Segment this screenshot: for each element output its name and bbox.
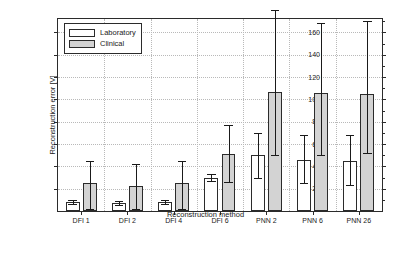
- error-bar-line: [90, 161, 91, 209]
- error-bar-cap-upper: [317, 23, 325, 24]
- bar-group: PNN 26: [336, 19, 382, 211]
- error-bar-cap-upper: [224, 125, 232, 126]
- error-bar-cap-lower: [300, 183, 308, 184]
- error-bar-line: [229, 125, 230, 182]
- error-bar-cap-upper: [178, 161, 186, 162]
- error-bar-cap-lower: [115, 205, 123, 206]
- error-bar-cap-upper: [161, 200, 169, 201]
- y-tick-minor: [382, 21, 385, 22]
- error-bar-cap-lower: [207, 181, 215, 182]
- error-bar-cap-upper: [254, 133, 262, 134]
- y-tick-minor: [382, 200, 385, 201]
- error-bar-line: [211, 174, 212, 181]
- y-tick-right: [382, 144, 386, 145]
- y-tick-minor: [382, 88, 385, 89]
- error-bar-line: [304, 135, 305, 183]
- error-bar-cap-upper: [346, 135, 354, 136]
- y-tick-right: [382, 99, 386, 100]
- x-axis-title: Reconstruction method: [0, 210, 411, 219]
- legend-label-laboratory: Laboratory: [100, 29, 136, 37]
- y-tick-right: [382, 189, 386, 190]
- error-bar-cap-upper: [207, 174, 215, 175]
- bar-group: PNN 2: [243, 19, 289, 211]
- error-bar-cap-lower: [161, 204, 169, 205]
- error-bar-cap-upper: [300, 135, 308, 136]
- error-bar-cap-upper: [363, 21, 371, 22]
- legend-swatch-laboratory: [69, 29, 95, 37]
- error-bar-cap-upper: [68, 200, 76, 201]
- error-bar-cap-lower: [68, 204, 76, 205]
- error-bar-cap-upper: [115, 201, 123, 202]
- y-axis-title: Reconstruction error [V]: [48, 75, 57, 154]
- y-tick-minor: [382, 155, 385, 156]
- legend-item-laboratory: Laboratory: [69, 28, 136, 38]
- y-tick-right: [382, 55, 386, 56]
- y-tick-minor: [382, 66, 385, 67]
- error-bar-cap-lower: [363, 153, 371, 154]
- error-bar-cap-upper: [132, 164, 140, 165]
- error-bar-cap-lower: [346, 185, 354, 186]
- y-tick-minor: [382, 111, 385, 112]
- bar-group: PNN 6: [289, 19, 335, 211]
- chart-legend: Laboratory Clinical: [64, 23, 142, 54]
- error-bar-line: [136, 164, 137, 209]
- error-bar-cap-lower: [224, 182, 232, 183]
- bar-group: DFI 4: [151, 19, 197, 211]
- y-tick-minor: [382, 178, 385, 179]
- bar-group: DFI 6: [197, 19, 243, 211]
- bar-laboratory: [204, 178, 218, 211]
- bar-chart: 20406080100120140160 DFI 1DFI 2DFI 4DFI …: [0, 0, 411, 272]
- y-tick-right: [382, 122, 386, 123]
- error-bar-cap-lower: [254, 178, 262, 179]
- y-tick-minor: [382, 44, 385, 45]
- error-bar-line: [367, 21, 368, 153]
- y-tick-right: [382, 32, 386, 33]
- plot-area: 20406080100120140160 DFI 1DFI 2DFI 4DFI …: [57, 18, 383, 212]
- y-tick-right: [382, 166, 386, 167]
- error-bar-cap-upper: [271, 10, 279, 11]
- legend-label-clinical: Clinical: [100, 40, 124, 48]
- error-bar-cap-lower: [317, 155, 325, 156]
- legend-swatch-clinical: [69, 40, 95, 48]
- error-bar-cap-lower: [271, 155, 279, 156]
- legend-item-clinical: Clinical: [69, 39, 136, 49]
- error-bar-cap-upper: [86, 161, 94, 162]
- error-bar-line: [258, 133, 259, 178]
- error-bar-line: [350, 135, 351, 185]
- y-tick-right: [382, 77, 386, 78]
- error-bar-line: [182, 161, 183, 209]
- error-bar-line: [321, 23, 322, 155]
- error-bar-line: [275, 10, 276, 155]
- y-tick-minor: [382, 133, 385, 134]
